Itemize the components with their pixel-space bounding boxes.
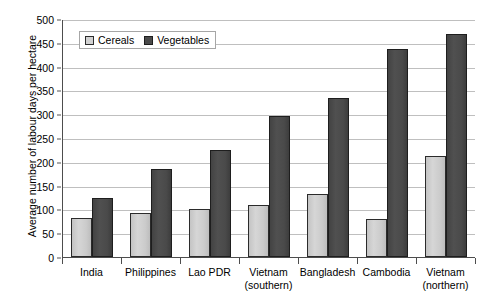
y-axis-tick-label: 400 (36, 62, 54, 74)
x-axis-label-line1: Philippines (125, 266, 176, 278)
bar-cereals (425, 156, 446, 257)
x-axis-label: Cambodia (357, 266, 416, 292)
y-axis-tick-labels: 500450400350300250200150100500 (24, 0, 58, 304)
bar-vegetables (328, 98, 349, 257)
y-axis-tick-label: 250 (36, 133, 54, 145)
y-axis-tick-mark (57, 115, 61, 116)
bar-vegetables (446, 34, 467, 257)
x-axis-label: Bangladesh (298, 266, 357, 292)
x-axis-label-line2: (northern) (416, 279, 475, 292)
legend-item-cereals: Cereals (85, 34, 134, 46)
y-axis-tick-label: 0 (48, 252, 54, 264)
x-axis-label-line1: Vietnam (249, 266, 287, 278)
legend-item-vegetables: Vegetables (144, 34, 209, 46)
bar-vegetables (151, 169, 172, 257)
y-axis-tick-mark (57, 258, 61, 259)
x-axis-label-line2: (southern) (239, 279, 298, 292)
y-axis-tick-mark (57, 43, 61, 44)
bar-vegetables (269, 116, 290, 257)
x-axis-label-line1: India (80, 266, 103, 278)
x-axis-tick-mark (298, 258, 299, 264)
chart-legend: Cereals Vegetables (79, 31, 216, 49)
bar-group (416, 20, 475, 257)
y-axis-tick-label: 300 (36, 109, 54, 121)
x-axis-label-line1: Lao PDR (188, 266, 231, 278)
bar-cereals (307, 194, 328, 257)
x-axis-tick-mark (416, 258, 417, 264)
legend-label-vegetables: Vegetables (157, 34, 209, 46)
y-axis-tick-label: 450 (36, 38, 54, 50)
y-axis-tick-label: 50 (42, 228, 54, 240)
bar-chart: Average number of labour days per hectar… (0, 0, 492, 304)
x-axis-label: Philippines (121, 266, 180, 292)
bar-vegetables (92, 198, 113, 257)
bar-groups (63, 20, 475, 257)
y-axis-tick-label: 500 (36, 14, 54, 26)
x-axis-label-line1: Vietnam (426, 266, 464, 278)
y-axis-tick-mark (57, 162, 61, 163)
y-axis-tick-label: 100 (36, 204, 54, 216)
x-axis-tick-marks (62, 258, 475, 265)
x-axis-tick-mark (180, 258, 181, 264)
x-axis-labels: IndiaPhilippinesLao PDRVietnam(southern)… (62, 266, 475, 292)
vegetables-swatch-icon (144, 36, 153, 45)
y-axis-tick-mark (57, 139, 61, 140)
y-axis-tick-mark (57, 210, 61, 211)
y-axis-tick-mark (57, 67, 61, 68)
legend-label-cereals: Cereals (98, 34, 134, 46)
bar-vegetables (387, 49, 408, 257)
y-axis-tick-label: 350 (36, 85, 54, 97)
y-axis-tick-mark (57, 20, 61, 21)
plot-area (62, 20, 475, 258)
bar-group (357, 20, 416, 257)
y-axis-tick-mark (57, 234, 61, 235)
x-axis-tick-mark (475, 258, 476, 264)
x-axis-tick-mark (239, 258, 240, 264)
bar-vegetables (210, 150, 231, 257)
x-axis-tick-mark (121, 258, 122, 264)
y-axis-tick-label: 150 (36, 181, 54, 193)
x-axis-label: India (62, 266, 121, 292)
y-axis-tick-mark (57, 186, 61, 187)
x-axis-label-line1: Bangladesh (300, 266, 355, 278)
bar-cereals (189, 209, 210, 257)
x-axis-label: Vietnam(southern) (239, 266, 298, 292)
bar-group (181, 20, 240, 257)
bar-group (240, 20, 299, 257)
bar-cereals (248, 205, 269, 257)
x-axis-tick-mark (357, 258, 358, 264)
x-axis-label: Vietnam(northern) (416, 266, 475, 292)
y-axis-tick-label: 200 (36, 157, 54, 169)
bar-cereals (366, 219, 387, 257)
cereals-swatch-icon (85, 36, 94, 45)
bar-group (298, 20, 357, 257)
bar-cereals (130, 213, 151, 257)
x-axis-label-line1: Cambodia (363, 266, 411, 278)
y-axis-tick-mark (57, 91, 61, 92)
bar-group (63, 20, 122, 257)
bar-cereals (71, 218, 92, 257)
x-axis-tick-mark (62, 258, 63, 264)
x-axis-label: Lao PDR (180, 266, 239, 292)
bar-group (122, 20, 181, 257)
